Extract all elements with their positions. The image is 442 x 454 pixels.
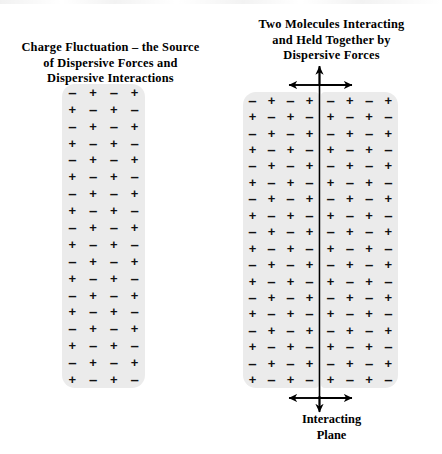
single-molecule-cell-positive: + xyxy=(110,103,118,116)
molecule-a-cell-positive: + xyxy=(306,127,314,140)
molecule-a-cell-positive: + xyxy=(268,291,276,304)
molecule-a-cell-negative: – xyxy=(305,109,313,124)
single-molecule-cell-negative: – xyxy=(89,101,97,116)
molecule-b-cell-negative: – xyxy=(384,339,392,354)
single-molecule-cell-negative: – xyxy=(68,287,76,302)
molecule-a-cell-positive: + xyxy=(306,357,314,370)
molecule-b-cell-positive: + xyxy=(327,143,335,156)
molecule-a-cell-positive: + xyxy=(249,373,257,386)
molecule-a-cell-negative: – xyxy=(305,174,313,189)
single-molecule-cell-positive: + xyxy=(69,137,77,150)
molecule-a-cell-positive: + xyxy=(249,307,257,320)
molecule-a-cell-positive: + xyxy=(249,340,257,353)
molecule-b-cell-negative: – xyxy=(326,191,334,206)
molecule-b-cell-positive: + xyxy=(346,357,354,370)
single-molecule-cell-negative: – xyxy=(110,355,118,370)
molecule-a-cell-negative: – xyxy=(267,273,275,288)
single-molecule-cell-positive: + xyxy=(89,86,97,99)
single-molecule-cell-negative: – xyxy=(130,101,138,116)
single-molecule-cell-positive: + xyxy=(131,86,139,99)
molecule-a-cell-positive: + xyxy=(249,242,257,255)
molecule-b-cell-negative: – xyxy=(326,322,334,337)
single-molecule-cell-negative: – xyxy=(68,253,76,268)
molecule-b-cell-positive: + xyxy=(327,242,335,255)
single-molecule-cell-positive: + xyxy=(110,272,118,285)
molecule-b-cell-positive: + xyxy=(365,242,373,255)
molecule-b-cell-negative: – xyxy=(346,207,354,222)
molecule-a-cell-negative: – xyxy=(267,174,275,189)
molecule-a-cell-negative: – xyxy=(286,125,294,140)
molecule-a-cell-positive: + xyxy=(268,324,276,337)
molecule-b-cell-negative: – xyxy=(365,92,373,107)
single-molecule-cell-negative: – xyxy=(130,372,138,387)
molecule-b-cell-positive: + xyxy=(327,110,335,123)
molecule-b-cell-positive: + xyxy=(385,258,393,271)
single-molecule-cell-negative: – xyxy=(130,135,138,150)
molecule-b-cell-negative: – xyxy=(365,158,373,173)
charge-grid-molecule-b: –+–++–+––+–++–+––+–++–+––+–++–+––+–++–+–… xyxy=(321,92,398,388)
molecule-b-cell-positive: + xyxy=(385,324,393,337)
molecule-a-cell-negative: – xyxy=(305,207,313,222)
molecule-a-cell-positive: + xyxy=(268,258,276,271)
single-molecule-cell-negative: – xyxy=(110,186,118,201)
single-molecule-cell-positive: + xyxy=(89,153,97,166)
single-molecule-cell-negative: – xyxy=(89,270,97,285)
molecule-a-cell-positive: + xyxy=(249,176,257,189)
molecule-a-cell-negative: – xyxy=(286,290,294,305)
molecule-a-cell-negative: – xyxy=(267,240,275,255)
molecule-a-cell-negative: – xyxy=(248,125,256,140)
molecule-b-cell-positive: + xyxy=(385,357,393,370)
molecule-a-cell-negative: – xyxy=(248,92,256,107)
single-molecule-cell-positive: + xyxy=(69,170,77,183)
single-molecule-cell-negative: – xyxy=(89,372,97,387)
single-molecule-cell-positive: + xyxy=(89,289,97,302)
molecule-b-cell-negative: – xyxy=(346,339,354,354)
molecule-a-cell-positive: + xyxy=(287,275,295,288)
single-molecule-cell-negative: – xyxy=(89,135,97,150)
single-molecule-cell-negative: – xyxy=(110,287,118,302)
single-molecule-cell-positive: + xyxy=(110,339,118,352)
molecule-b-cell-negative: – xyxy=(346,240,354,255)
right-figure-panel: Two Molecules Interacting and Held Toget… xyxy=(221,0,442,454)
single-molecule-cell-positive: + xyxy=(89,356,97,369)
single-molecule-cell-negative: – xyxy=(68,118,76,133)
molecule-b-cell-positive: + xyxy=(365,307,373,320)
single-molecule-cell-positive: + xyxy=(89,221,97,234)
single-molecule-cell-negative: – xyxy=(68,220,76,235)
single-molecule-cell-negative: – xyxy=(110,84,118,99)
molecule-a-cell-positive: + xyxy=(268,192,276,205)
molecule-b-cell-positive: + xyxy=(385,192,393,205)
single-molecule-cell-negative: – xyxy=(110,220,118,235)
molecule-b-cell-positive: + xyxy=(346,159,354,172)
molecule-b-cell-negative: – xyxy=(384,372,392,387)
single-molecule-cell-negative: – xyxy=(89,169,97,184)
molecule-b-cell-positive: + xyxy=(365,110,373,123)
molecule-a-cell-negative: – xyxy=(267,142,275,157)
molecule-b-cell-negative: – xyxy=(326,290,334,305)
single-molecule-cell-negative: – xyxy=(110,152,118,167)
single-molecule-cell-negative: – xyxy=(68,321,76,336)
single-molecule-cell-positive: + xyxy=(131,289,139,302)
single-molecule-cell-positive: + xyxy=(69,305,77,318)
single-molecule-cell-negative: – xyxy=(130,270,138,285)
molecule-a-cell-positive: + xyxy=(287,373,295,386)
molecule-b-cell-negative: – xyxy=(326,158,334,173)
single-molecule-cell-positive: + xyxy=(89,187,97,200)
single-molecule-cell-positive: + xyxy=(110,204,118,217)
molecule-b-cell-positive: + xyxy=(327,307,335,320)
molecule-b-cell-positive: + xyxy=(346,127,354,140)
single-molecule-cell-negative: – xyxy=(68,355,76,370)
molecule-a-cell-positive: + xyxy=(306,159,314,172)
molecule-b-cell-negative: – xyxy=(346,372,354,387)
molecule-b-cell-negative: – xyxy=(384,174,392,189)
molecule-b-cell-negative: – xyxy=(365,257,373,272)
interacting-plane-caption: Interacting Plane xyxy=(221,412,442,443)
molecule-a-cell-negative: – xyxy=(305,339,313,354)
molecule-a-cell-negative: – xyxy=(286,257,294,272)
single-molecule-cell-positive: + xyxy=(131,356,139,369)
molecule-b-cell-positive: + xyxy=(327,275,335,288)
molecule-a-cell-positive: + xyxy=(306,258,314,271)
left-figure-panel: Charge Fluctuation – the Source of Dispe… xyxy=(0,0,221,454)
charge-grid-molecule-a: –+–++–+––+–++–+––+–++–+––+–++–+––+–++–+–… xyxy=(243,92,319,388)
molecule-b-cell-positive: + xyxy=(365,143,373,156)
